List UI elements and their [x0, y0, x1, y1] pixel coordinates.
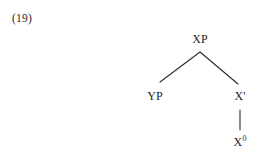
tree-branch-lines [0, 0, 265, 163]
figure-root: (19) XP YP X' X0 [0, 0, 265, 163]
tree-node-x-bar-base: X [235, 89, 244, 103]
tree-node-x-bar-prime: ' [243, 89, 245, 103]
tree-node-x-zero-superscript: 0 [242, 134, 246, 143]
branch-xp-to-yp [160, 52, 200, 82]
tree-node-x-bar: X' [235, 90, 246, 103]
tree-node-x-zero: X0 [234, 136, 247, 149]
tree-node-x-zero-base: X [234, 135, 243, 149]
tree-node-yp: YP [147, 90, 163, 103]
tree-node-xp: XP [192, 33, 208, 46]
branch-xp-to-xbar [200, 52, 238, 84]
